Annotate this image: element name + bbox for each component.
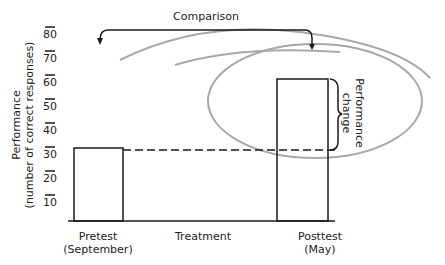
svg-text:80: 80 [43, 28, 57, 41]
y-axis-sublabel: (number of correct responses) [23, 42, 36, 209]
comparison-label: Comparison [173, 10, 239, 23]
svg-text:40: 40 [43, 124, 57, 137]
svg-text:60: 60 [43, 76, 57, 89]
svg-text:20: 20 [43, 172, 57, 185]
outer-ellipse-arc [120, 29, 430, 78]
diagram-canvas: Comparison 80 70 60 50 40 30 20 10 Perfo… [0, 0, 445, 265]
pretest-bar [74, 148, 123, 221]
svg-text:50: 50 [43, 100, 57, 113]
svg-text:10: 10 [43, 196, 57, 209]
posttest-label: Posttest [298, 230, 343, 243]
y-axis-ticks: 80 70 60 50 40 30 20 10 [43, 27, 57, 209]
pretest-sublabel: (September) [63, 243, 132, 256]
svg-text:30: 30 [43, 148, 57, 161]
treatment-label: Treatment [174, 230, 232, 243]
arrowhead-right-icon [309, 44, 315, 50]
pretest-label: Pretest [79, 230, 118, 243]
svg-text:70: 70 [43, 52, 57, 65]
posttest-sublabel: (May) [304, 243, 335, 256]
performance-change-label: Performance [353, 78, 366, 148]
performance-change-sublabel: change [340, 93, 353, 134]
y-axis-label: Performance [10, 90, 23, 160]
arrowhead-left-icon [97, 38, 103, 45]
highlight-ellipse [208, 44, 422, 158]
